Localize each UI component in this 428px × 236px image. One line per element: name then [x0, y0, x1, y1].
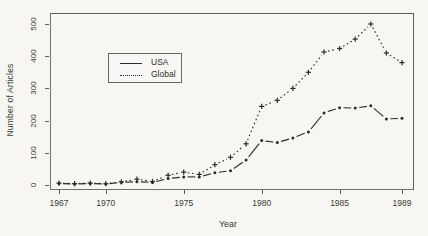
x-tick-label: 1970 [96, 198, 115, 208]
legend-entry-usa: USA [109, 57, 181, 69]
x-tick-mark [184, 190, 185, 194]
y-tick-label: 100 [29, 146, 38, 159]
scanned-line-chart-figure: Number of Articles Year USA Global 01002… [0, 0, 428, 236]
y-tick-mark [45, 121, 49, 122]
x-tick-mark [59, 190, 60, 194]
x-tick-label: 1989 [393, 198, 412, 208]
y-tick-mark [45, 185, 49, 186]
x-tick-label: 1980 [252, 198, 271, 208]
legend-entry-global: Global [109, 69, 181, 81]
legend-label-global: Global [151, 69, 176, 79]
y-tick-label: 200 [29, 114, 38, 127]
x-tick-mark [106, 190, 107, 194]
x-tick-mark [340, 190, 341, 194]
usa-line-sample [120, 63, 142, 64]
y-tick-label: 400 [29, 50, 38, 63]
global-line-sample [120, 75, 142, 76]
x-tick-mark [402, 190, 403, 194]
y-tick-label: 500 [29, 17, 38, 30]
y-tick-mark [45, 88, 49, 89]
y-tick-mark [45, 153, 49, 154]
legend-box: USA Global [108, 53, 182, 83]
y-tick-mark [45, 24, 49, 25]
x-tick-mark [262, 190, 263, 194]
y-tick-label: 0 [29, 183, 38, 187]
x-tick-label: 1975 [174, 198, 193, 208]
legend-label-usa: USA [151, 57, 168, 67]
y-tick-mark [45, 56, 49, 57]
x-tick-label: 1967 [50, 198, 69, 208]
x-tick-label: 1985 [330, 198, 349, 208]
y-tick-label: 300 [29, 82, 38, 95]
